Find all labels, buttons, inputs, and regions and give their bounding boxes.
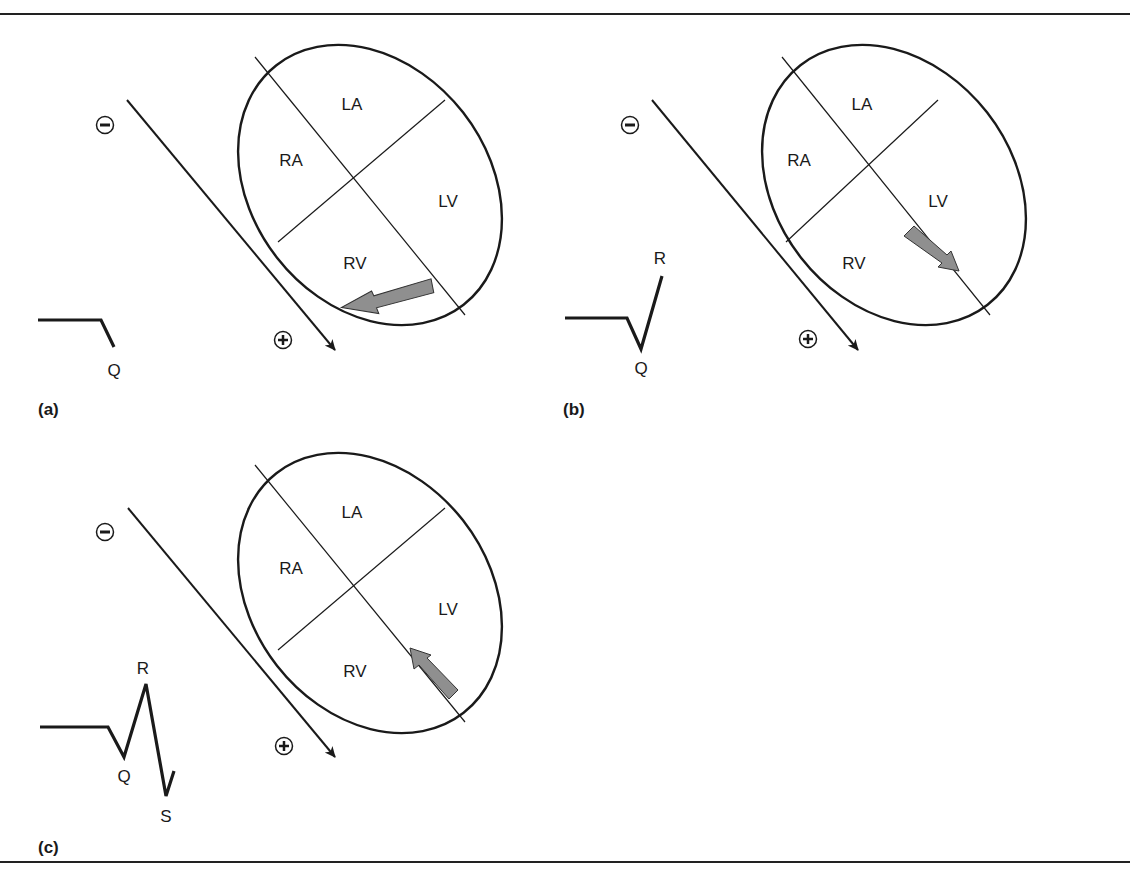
- label-lv: LV: [928, 192, 948, 211]
- negative-electrode-icon: [622, 117, 639, 134]
- label-ra: RA: [279, 151, 303, 170]
- wave-label-q: Q: [117, 767, 130, 786]
- panel-label: (c): [38, 838, 59, 857]
- label-la: LA: [342, 95, 363, 114]
- wave-label-s: S: [160, 807, 171, 826]
- lead-axis-arrow: [127, 100, 335, 350]
- depolarization-vector-arrow: [904, 226, 959, 271]
- ecg-waveform: [38, 320, 114, 347]
- panel-a: LA RA LV RV Q (a): [38, 0, 557, 419]
- panel-c: LA RA LV RV R Q S (c): [38, 401, 557, 857]
- ecg-vector-diagram: LA RA LV RV Q (a) LA RA LV RV: [0, 0, 1130, 884]
- label-rv: RV: [343, 254, 367, 273]
- panel-label: (b): [563, 400, 585, 419]
- label-lv: LV: [438, 600, 458, 619]
- wave-label-r: R: [654, 249, 666, 268]
- positive-electrode-icon: [276, 738, 293, 755]
- depolarization-vector-arrow: [340, 279, 435, 316]
- negative-electrode-icon: [97, 524, 114, 541]
- positive-electrode-icon: [800, 331, 817, 348]
- label-rv: RV: [842, 254, 866, 273]
- septum-line: [782, 57, 990, 315]
- heart-outline: [707, 0, 1080, 377]
- positive-electrode-icon: [275, 332, 292, 349]
- wave-label-q: Q: [634, 359, 647, 378]
- heart-outline: [183, 401, 556, 786]
- label-la: LA: [342, 503, 363, 522]
- depolarization-vector-arrow: [410, 648, 458, 699]
- panel-b: LA RA LV RV R Q (b): [563, 0, 1081, 419]
- heart-outline: [183, 0, 556, 377]
- panel-label: (a): [38, 400, 59, 419]
- wave-label-r: R: [137, 659, 149, 678]
- label-lv: LV: [438, 192, 458, 211]
- ecg-waveform: [565, 276, 662, 349]
- av-line: [278, 508, 445, 650]
- lead-axis-arrow: [652, 100, 858, 350]
- negative-electrode-icon: [97, 117, 114, 134]
- label-ra: RA: [787, 151, 811, 170]
- av-line: [786, 100, 938, 242]
- label-la: LA: [852, 95, 873, 114]
- av-line: [278, 100, 445, 242]
- wave-label-q: Q: [107, 361, 120, 380]
- ecg-waveform: [40, 684, 174, 796]
- label-ra: RA: [279, 559, 303, 578]
- lead-axis-arrow: [128, 508, 335, 757]
- label-rv: RV: [343, 662, 367, 681]
